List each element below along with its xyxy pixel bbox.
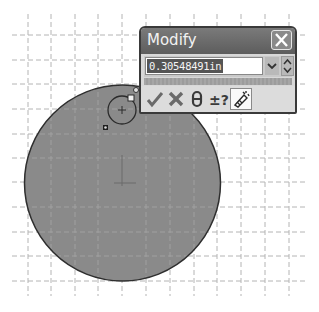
close-button[interactable] — [271, 30, 292, 50]
modify-dialog: Modify 0.30548491in — [139, 26, 297, 114]
value-spinner[interactable] — [281, 56, 294, 76]
mark-dimension-button[interactable] — [230, 88, 252, 110]
spinner-arrows-icon — [282, 57, 293, 75]
mark-dimension-icon — [231, 89, 251, 109]
dialog-titlebar[interactable]: Modify — [141, 28, 295, 54]
rebuild-icon — [187, 89, 207, 109]
cancel-button[interactable] — [166, 89, 186, 109]
value-dropdown-button[interactable] — [265, 57, 279, 75]
rebuild-button[interactable] — [187, 89, 207, 109]
relation-icon — [103, 125, 108, 130]
value-wheel-strip[interactable] — [144, 78, 292, 85]
dimension-value-input[interactable]: 0.30548491in — [145, 57, 263, 75]
dimension-value-text[interactable]: 0.30548491in — [147, 59, 223, 73]
svg-text:±?: ±? — [209, 92, 229, 108]
chevron-down-icon — [265, 57, 279, 75]
handle-square[interactable] — [128, 95, 134, 101]
value-row: 0.30548491in — [144, 56, 292, 77]
reverse-sense-button[interactable]: ±? — [208, 89, 228, 109]
check-icon — [145, 89, 165, 109]
reverse-sense-icon: ±? — [208, 89, 230, 109]
close-icon — [272, 31, 291, 49]
ok-button[interactable] — [145, 89, 165, 109]
x-icon — [166, 89, 186, 109]
coincident-marker — [134, 88, 139, 93]
dialog-toolbar: ±? — [141, 86, 295, 114]
dialog-title: Modify — [147, 31, 197, 49]
